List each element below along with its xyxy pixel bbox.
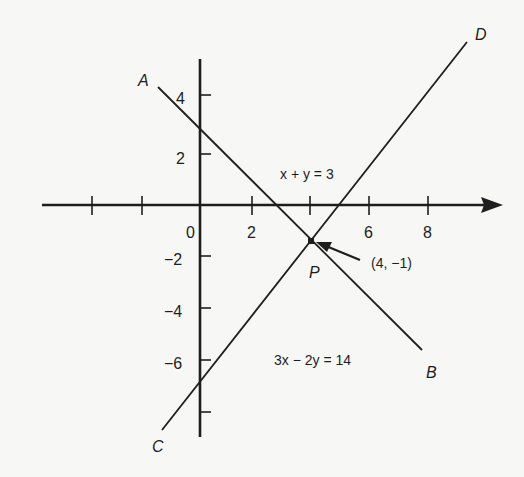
x-tick-label-8: 8	[423, 224, 432, 241]
x-tick-label-0: 0	[186, 224, 195, 241]
label-d: D	[475, 26, 487, 43]
equation-label-line-1: x + y = 3	[280, 166, 334, 182]
graph-figure: 0 2 6 8 4 2 −2 −4 −6	[0, 0, 524, 477]
intersection-point-marker	[308, 238, 314, 244]
x-tick-label-2: 2	[247, 224, 256, 241]
y-tick-label-neg4: −4	[164, 303, 182, 320]
label-c: C	[152, 438, 164, 455]
label-p: P	[309, 264, 320, 281]
coordinate-label: (4, −1)	[371, 255, 412, 271]
equation-label-line-2: 3x − 2y = 14	[274, 352, 351, 368]
line-cd	[162, 42, 467, 430]
x-axis: 0 2 6 8	[42, 196, 503, 241]
y-tick-label-4: 4	[176, 90, 185, 107]
y-tick-label-neg6: −6	[164, 355, 182, 372]
x-axis-arrow-icon	[481, 197, 503, 213]
y-tick-label-neg2: −2	[164, 251, 182, 268]
y-tick-label-2: 2	[176, 150, 185, 167]
line-ab	[158, 87, 422, 350]
label-b: B	[426, 364, 437, 381]
x-tick-label-6: 6	[364, 224, 373, 241]
label-a: A	[137, 72, 149, 89]
